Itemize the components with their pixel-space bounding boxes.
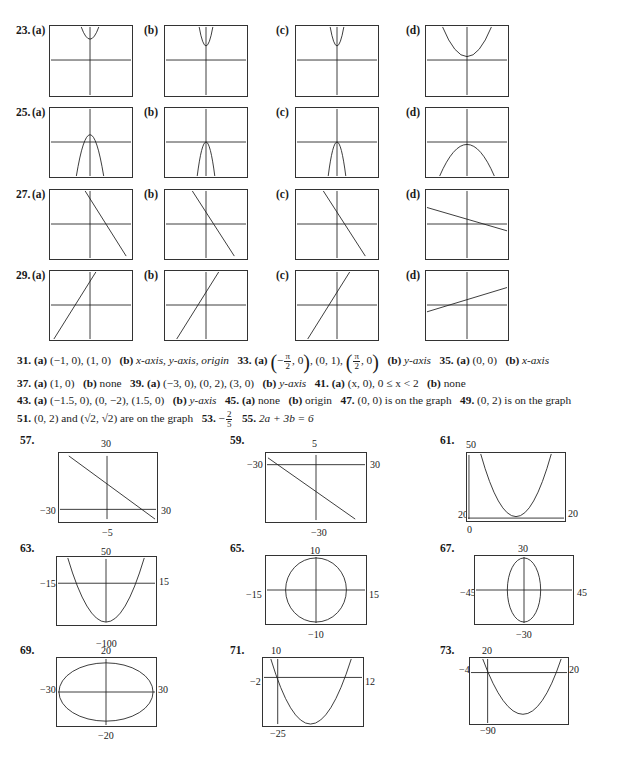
answer-line-31-35: 31. (a) (−1, 0), (1, 0) (b) x-axis, y-ax… (17, 352, 549, 371)
graph-67 (474, 555, 574, 625)
exercise-number: 63. (20, 542, 34, 554)
exercise-number: 29. (16, 269, 30, 281)
exercise-number: 71. (230, 644, 244, 656)
exercise-number: 23. (16, 24, 30, 36)
part-label: (b) (144, 269, 158, 281)
part-label: (c) (276, 24, 289, 36)
window-top: 5 (312, 438, 317, 449)
window-left: −30 (40, 684, 56, 695)
window-right: 30 (370, 459, 380, 470)
window-right: 45 (577, 587, 587, 598)
graph-61 (466, 452, 566, 522)
window-top: 30 (101, 438, 111, 449)
window-bottom: −30 (311, 527, 327, 538)
part-label: (c) (276, 106, 289, 118)
exercise-number: 69. (20, 644, 34, 656)
part-label: (d) (406, 24, 420, 36)
exercise-number: 25. (16, 106, 30, 118)
window-right: 12 (365, 676, 375, 687)
window-bottom: −20 (98, 730, 114, 741)
window-bottom: −30 (516, 629, 532, 640)
part-label: (b) (144, 106, 158, 118)
window-right: 15 (159, 576, 169, 587)
graph-57 (58, 452, 158, 523)
window-left: −30 (247, 459, 263, 470)
window-bottom: −10 (308, 629, 324, 640)
graph-23c (295, 25, 379, 97)
answer-line-51-55: 51. (0, 2) and (√2, √2) are on the graph… (17, 410, 314, 429)
graph-29d (425, 270, 509, 341)
fraction-pi-over-2: π2 (353, 352, 360, 371)
graph-29c (295, 270, 379, 341)
graph-27a (49, 189, 133, 260)
graph-25b (164, 107, 248, 178)
graph-27c (295, 189, 379, 260)
window-bottom: −5 (102, 527, 113, 538)
exercise-number: 73. (440, 644, 454, 656)
graph-27b (164, 189, 248, 260)
part-label: (d) (406, 269, 420, 281)
part-label: (d) (406, 188, 420, 200)
window-top: 10 (271, 645, 281, 656)
window-left: −15 (246, 589, 262, 600)
graph-25d (425, 107, 509, 178)
part-label: (a) (32, 269, 45, 281)
graph-29a (49, 270, 133, 341)
window-top: 50 (466, 439, 476, 450)
fraction-pi-over-2: π2 (284, 352, 291, 371)
exercise-number: 57. (20, 434, 34, 446)
part-label: (a) (32, 106, 45, 118)
window-top: 30 (518, 543, 528, 554)
window-left: −30 (40, 505, 56, 516)
exercise-number: 67. (440, 542, 454, 554)
window-right: 20 (568, 508, 578, 519)
graph-65 (265, 555, 367, 625)
exercise-number: 27. (16, 188, 30, 200)
graph-27d (425, 189, 509, 260)
graph-23d (425, 25, 509, 97)
window-left: −2 (250, 676, 261, 687)
part-label: (c) (276, 188, 289, 200)
graph-59 (265, 452, 367, 523)
part-label: (b) (144, 24, 158, 36)
graph-73 (469, 657, 569, 725)
graph-23b (164, 25, 248, 97)
window-right: 20 (569, 664, 579, 675)
window-bottom: −90 (480, 725, 496, 736)
window-left: −15 (40, 578, 56, 589)
graph-71 (262, 657, 364, 727)
window-right: 30 (158, 684, 168, 695)
fraction-2-over-5: 25 (226, 410, 233, 429)
part-label: (a) (32, 24, 45, 36)
part-label: (a) (32, 188, 45, 200)
window-right: 30 (161, 505, 171, 516)
window-top: 20 (101, 645, 111, 656)
part-label: (d) (406, 106, 420, 118)
window-bottom: 0 (467, 524, 472, 535)
graph-25a (49, 107, 133, 178)
graph-25c (295, 107, 379, 178)
graph-23a (49, 25, 133, 97)
exercise-number: 59. (230, 434, 244, 446)
part-label: (b) (144, 188, 158, 200)
exercise-number: 65. (230, 542, 244, 554)
exercise-number: 61. (440, 434, 454, 446)
graph-63 (56, 556, 157, 626)
graph-29b (164, 270, 248, 341)
answer-line-37-41: 37. (a) (1, 0) (b) none 39. (a) (−3, 0),… (17, 376, 466, 390)
part-label: (c) (276, 269, 289, 281)
answer-line-43-49: 43. (a) (−1.5, 0), (0, −2), (1.5, 0) (b)… (17, 393, 571, 407)
window-bottom: −25 (270, 728, 286, 739)
window-right: 15 (369, 589, 379, 600)
graph-69 (56, 657, 157, 727)
window-top: 20 (482, 645, 492, 656)
